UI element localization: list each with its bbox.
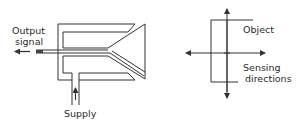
- output-label-line2: signal: [15, 36, 43, 47]
- sensing-axes: [186, 9, 265, 98]
- output-tube: [15, 50, 110, 53]
- output-label-line1: Output: [12, 25, 45, 36]
- object-label: Object: [243, 24, 274, 35]
- diagram-canvas: Output signal Supply Object Sensing dire…: [0, 0, 302, 125]
- supply-tube: [72, 73, 79, 105]
- supply-label: Supply: [64, 108, 97, 119]
- sensing-label-line1: Sensing: [243, 62, 281, 73]
- sensing-label-line2: directions: [245, 73, 292, 84]
- sensor-body: [58, 24, 145, 80]
- tube-marker: [36, 50, 43, 53]
